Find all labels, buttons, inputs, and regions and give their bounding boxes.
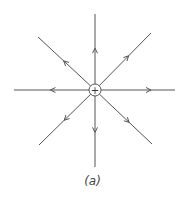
figure-caption: (a) (0, 174, 185, 188)
plus-icon: + (91, 85, 99, 96)
field-line-upper-right (99, 33, 151, 86)
field-diagram: + (a) (0, 0, 185, 204)
field-line-lower-right (99, 94, 152, 144)
